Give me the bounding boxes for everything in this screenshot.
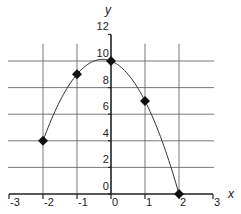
y-tick-label: 2 (103, 154, 109, 165)
x-tick-label: -3 (10, 197, 20, 208)
y-axis-title: y (105, 3, 111, 17)
x-tick-label: 0 (112, 197, 118, 208)
y-tick-label: 4 (103, 128, 109, 139)
x-tick-label: 3 (214, 197, 220, 208)
y-tick-label: 10 (97, 48, 109, 59)
y-tick-label: 12 (97, 21, 109, 32)
y-tick-label: 0 (103, 181, 109, 192)
chart-canvas (0, 0, 241, 214)
x-tick-label: -1 (78, 197, 88, 208)
y-tick-label: 6 (103, 101, 109, 112)
y-tick-label: 8 (103, 75, 109, 86)
x-tick-label: 2 (180, 197, 186, 208)
x-tick-label: 1 (146, 197, 152, 208)
diamond-marker (38, 136, 48, 146)
x-tick-label: -2 (44, 197, 54, 208)
x-axis-title: x (228, 187, 234, 201)
diamond-marker (140, 96, 150, 106)
